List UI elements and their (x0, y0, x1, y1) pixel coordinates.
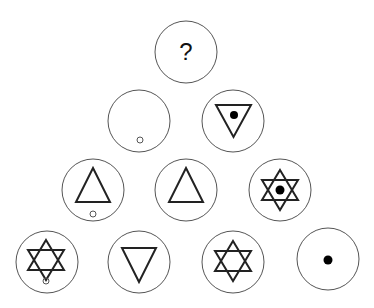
down-triangle-icon (122, 248, 156, 282)
circle-r3c3 (248, 158, 312, 222)
dot-icon (324, 256, 333, 265)
question-mark: ? (154, 20, 218, 84)
circle-r4c3 (201, 230, 265, 294)
circle-r2c1 (107, 89, 171, 153)
dot-icon (230, 111, 238, 119)
small-circle-icon (137, 137, 143, 143)
circle-r4c1 (15, 230, 79, 294)
circle-r4c2 (107, 230, 171, 294)
up-triangle-icon (169, 168, 203, 202)
small-circle-icon (90, 211, 96, 217)
down-triangle-icon (216, 105, 251, 137)
hexagram-icon (215, 241, 251, 281)
puzzle-diagram: ? (0, 0, 374, 308)
dot-icon (276, 186, 285, 195)
hexagram-icon (28, 240, 64, 280)
circle-r3c2 (154, 158, 218, 222)
circle-r1c1: ? (154, 20, 218, 84)
circle-r2c2 (201, 89, 265, 153)
circle-r3c1 (61, 158, 125, 222)
circle-r4c4 (296, 227, 360, 291)
up-triangle-icon (76, 168, 110, 202)
